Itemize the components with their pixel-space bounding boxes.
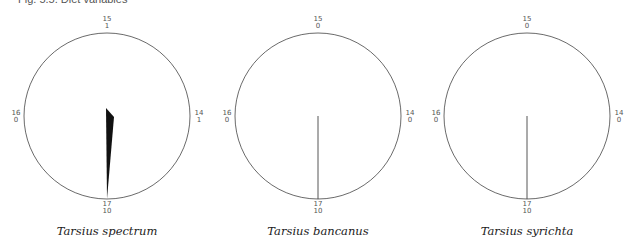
axis-label-left-value: 0 xyxy=(434,116,438,124)
axis-label-top-value: 0 xyxy=(316,22,320,30)
radar-plot-bancanus: 15 0 14 0 17 10 16 0 xyxy=(223,15,415,215)
axis-label-bottom-value: 10 xyxy=(314,207,323,215)
species-label-spectrum: Tarsius spectrum xyxy=(57,224,158,238)
axis-label-top-value: 0 xyxy=(525,22,529,30)
axis-label-top-value: 1 xyxy=(105,22,109,30)
axis-label-bottom-value: 10 xyxy=(523,207,532,215)
axis-label-left-value: 0 xyxy=(225,116,229,124)
radar-data-wedge xyxy=(106,108,114,199)
radar-plot-spectrum: 15 1 14 1 17 10 16 0 xyxy=(12,15,204,215)
axis-label-left-value: 0 xyxy=(14,116,18,124)
radar-plot-syrichta: 15 0 14 0 17 10 16 0 xyxy=(432,15,624,215)
axis-label-right-value: 0 xyxy=(617,116,621,124)
radar-charts: 15 1 14 1 17 10 16 0 15 0 14 0 17 10 16 … xyxy=(0,0,636,248)
species-label-syrichta: Tarsius syrichta xyxy=(481,224,574,238)
axis-label-right-value: 1 xyxy=(197,116,201,124)
axis-label-bottom-value: 10 xyxy=(103,207,112,215)
species-label-bancanus: Tarsius bancanus xyxy=(267,224,368,238)
axis-label-right-value: 0 xyxy=(408,116,412,124)
